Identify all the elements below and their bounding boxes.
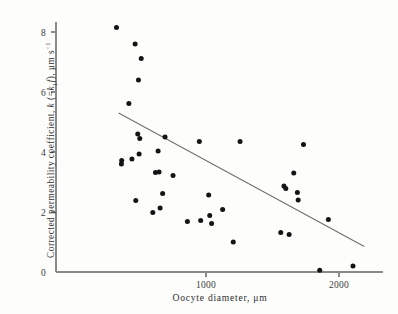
data-point (137, 152, 142, 157)
data-point (283, 186, 288, 191)
data-point (296, 198, 301, 203)
data-point (129, 156, 134, 161)
data-point-group (114, 25, 355, 273)
data-point (136, 78, 141, 83)
data-point (135, 132, 140, 137)
data-point (206, 192, 211, 197)
data-point (209, 221, 214, 226)
x-tick-label-1000: 1000 (196, 280, 216, 290)
data-point (197, 139, 202, 144)
data-point (317, 268, 322, 273)
data-point (114, 25, 119, 30)
data-point (171, 173, 176, 178)
data-point (350, 264, 355, 269)
data-point (287, 232, 292, 237)
figure-container: 8 6 4 2 0 1000 2000 Corrected permeabili… (0, 0, 398, 314)
data-point (158, 206, 163, 211)
data-point (160, 191, 165, 196)
data-point (133, 198, 138, 203)
data-point (119, 162, 124, 167)
y-tick-label-0: 0 (41, 268, 46, 278)
y-axis-tick-labels: 8 6 4 2 0 (41, 28, 46, 278)
y-tick-label-4: 4 (41, 148, 46, 158)
y-tick-label-6: 6 (41, 88, 46, 98)
y-tick-label-8: 8 (41, 28, 46, 38)
x-axis-tick-labels: 1000 2000 (196, 280, 349, 290)
data-point (126, 101, 131, 106)
y-tick-label-2: 2 (41, 208, 46, 218)
data-point (278, 230, 283, 235)
data-point (231, 240, 236, 245)
x-axis-ticks (206, 272, 339, 277)
data-point (198, 218, 203, 223)
data-point (157, 170, 162, 175)
data-point (207, 213, 212, 218)
data-point (238, 139, 243, 144)
y-axis-ticks (51, 32, 56, 212)
data-point (139, 56, 144, 61)
data-point (326, 217, 331, 222)
x-tick-label-2000: 2000 (329, 280, 349, 290)
regression-line (119, 113, 365, 247)
data-point (295, 190, 300, 195)
data-point (156, 149, 161, 154)
data-point (301, 142, 306, 147)
data-point (185, 219, 190, 224)
data-point (133, 42, 138, 47)
data-point (150, 210, 155, 215)
data-point (163, 135, 168, 140)
data-point (291, 171, 296, 176)
data-point (137, 136, 142, 141)
data-point (220, 207, 225, 212)
scatter-plot: 8 6 4 2 0 1000 2000 (0, 0, 398, 314)
